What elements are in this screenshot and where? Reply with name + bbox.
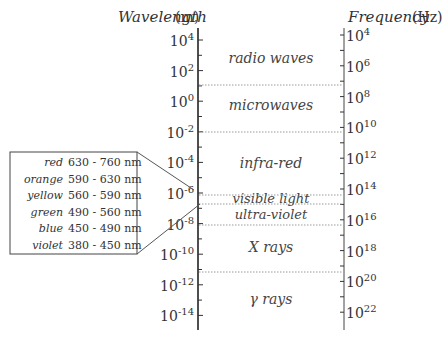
- frequency-tick-label: 1020: [346, 272, 377, 290]
- band-label-infra-red: infra-red: [240, 155, 302, 171]
- frequency-ticks: 1041061081010101210141016101810201022: [340, 26, 377, 321]
- frequency-tick-label: 1010: [346, 118, 377, 136]
- band-labels: radio wavesmicrowavesinfra-redvisible li…: [228, 50, 313, 307]
- frequency-tick-label: 1016: [346, 211, 377, 229]
- wavelength-tick-label: 10-4: [166, 153, 194, 171]
- spectrum-color-name: blue: [39, 222, 64, 235]
- spectrum-range: 490 - 560 nm: [68, 206, 142, 219]
- spectrum-color-name: violet: [32, 239, 63, 252]
- band-label-x-rays: X rays: [248, 239, 294, 255]
- wavelength-tick-label: 10-8: [166, 215, 194, 233]
- wavelength-tick-label: 10-14: [160, 306, 194, 324]
- spectrum-diagram: Wavelength (m) Frequency (Hz) 1041021001…: [0, 0, 447, 344]
- spectrum-color-name: red: [44, 156, 63, 169]
- frequency-tick-label: 1012: [346, 149, 377, 167]
- frequency-tick-label: 1022: [346, 303, 377, 321]
- band-label-microwaves: microwaves: [229, 97, 313, 113]
- band-label-radio-waves: radio waves: [228, 50, 313, 66]
- wavelength-tick-label: 10-10: [160, 245, 194, 263]
- wavelength-tick-label: 102: [170, 62, 194, 80]
- spectrum-color-name: yellow: [26, 189, 63, 202]
- spectrum-range: 630 - 760 nm: [68, 156, 142, 169]
- spectrum-range: 560 - 590 nm: [68, 189, 142, 202]
- wavelength-ticks: 10410210010-210-410-610-810-1010-1210-14: [160, 31, 203, 324]
- wavelength-tick-label: 104: [170, 31, 194, 49]
- frequency-tick-label: 1018: [346, 242, 377, 260]
- band-label-visible-light: visible light: [233, 191, 311, 206]
- wavelength-axis-unit: (m): [175, 9, 199, 25]
- spectrum-color-name: green: [31, 206, 63, 219]
- frequency-tick-label: 1014: [346, 180, 377, 198]
- frequency-tick-label: 106: [346, 57, 370, 75]
- spectrum-range: 450 - 490 nm: [68, 222, 142, 235]
- spectrum-color-name: orange: [24, 173, 64, 186]
- frequency-tick-label: 104: [346, 26, 370, 44]
- frequency-tick-label: 108: [346, 88, 370, 106]
- wavelength-tick-label: 10-12: [160, 276, 194, 294]
- wavelength-tick-label: 100: [170, 92, 194, 110]
- wavelength-tick-label: 10-2: [166, 123, 194, 141]
- visible-spectrum-table: red630 - 760 nmorange590 - 630 nmyellow5…: [24, 156, 142, 252]
- spectrum-range: 590 - 630 nm: [68, 173, 142, 186]
- frequency-axis-unit: (Hz): [412, 9, 443, 25]
- spectrum-range: 380 - 450 nm: [68, 239, 142, 252]
- band-label--rays: γ rays: [250, 291, 293, 307]
- band-label-ultra-violet: ultra-violet: [235, 207, 308, 222]
